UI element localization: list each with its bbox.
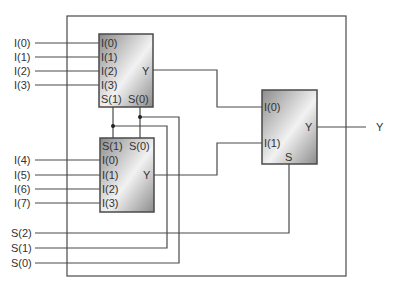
- svg-text:I(6): I(6): [14, 183, 31, 195]
- svg-text:I(1): I(1): [102, 169, 119, 181]
- svg-text:I(0): I(0): [14, 37, 31, 49]
- svg-text:I(2): I(2): [102, 183, 119, 195]
- svg-text:I(7): I(7): [14, 197, 31, 209]
- svg-text:I(0): I(0): [101, 37, 118, 49]
- mux-diagram: I(0) I(1) I(2) I(3) Y S(1) S(0) S(1) S(0…: [0, 0, 397, 293]
- svg-text:I(2): I(2): [14, 65, 31, 77]
- internal-wires: [153, 70, 366, 175]
- svg-text:S(1): S(1): [11, 242, 32, 254]
- svg-text:Y: Y: [142, 65, 150, 77]
- mux1-4to1: I(0) I(1) I(2) I(3) Y S(1) S(0): [99, 34, 153, 107]
- svg-text:I(0): I(0): [264, 101, 281, 113]
- svg-text:I(1): I(1): [101, 51, 118, 63]
- mux3-2to1: I(0) I(1) Y S: [262, 90, 317, 164]
- svg-text:Y: Y: [143, 169, 151, 181]
- svg-text:S(1): S(1): [101, 93, 122, 105]
- svg-text:I(0): I(0): [102, 154, 119, 166]
- input-labels: I(0) I(1) I(2) I(3) I(4) I(5) I(6) I(7): [14, 37, 31, 209]
- svg-text:Y: Y: [305, 121, 313, 133]
- select-wires: [35, 107, 289, 263]
- svg-text:I(3): I(3): [102, 197, 119, 209]
- svg-text:I(5): I(5): [14, 169, 31, 181]
- svg-text:S(2): S(2): [11, 227, 32, 239]
- svg-text:S(0): S(0): [128, 93, 149, 105]
- mux2-4to1: S(1) S(0) I(0) I(1) I(2) I(3) Y: [100, 138, 154, 212]
- svg-text:I(1): I(1): [264, 137, 281, 149]
- svg-text:I(2): I(2): [101, 65, 118, 77]
- svg-text:I(3): I(3): [101, 79, 118, 91]
- select-labels: S(2) S(1) S(0): [11, 227, 32, 269]
- svg-text:I(4): I(4): [14, 154, 31, 166]
- svg-text:S(0): S(0): [129, 140, 150, 152]
- svg-text:S(0): S(0): [11, 257, 32, 269]
- svg-text:I(3): I(3): [14, 79, 31, 91]
- svg-text:I(1): I(1): [14, 51, 31, 63]
- svg-text:S(1): S(1): [102, 140, 123, 152]
- svg-text:S: S: [285, 151, 292, 163]
- output-label: Y: [376, 121, 384, 133]
